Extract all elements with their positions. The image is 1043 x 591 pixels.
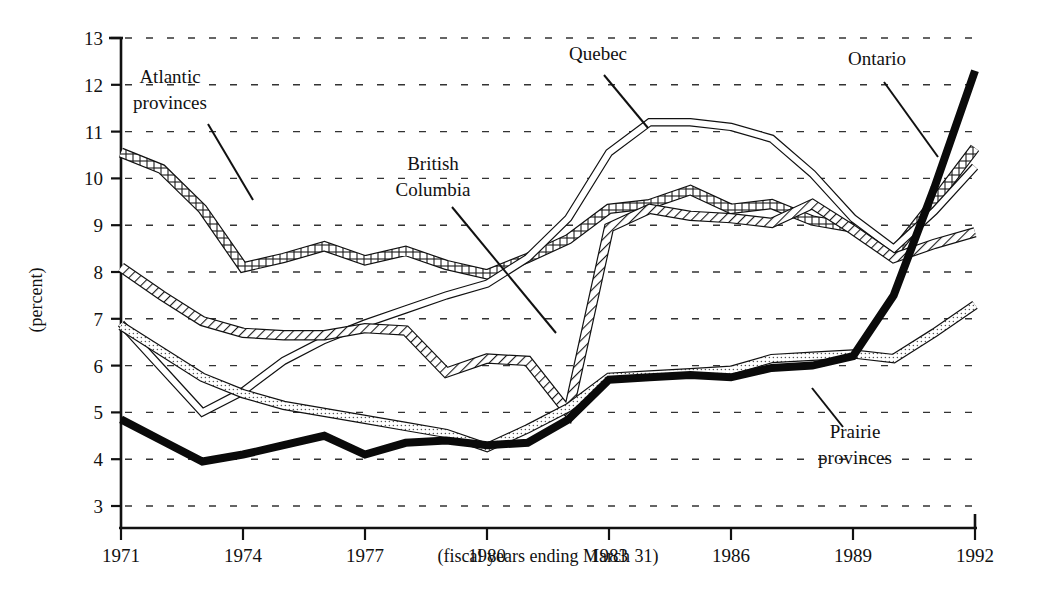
x-tick-label: 1986: [712, 545, 750, 566]
chart-figure: 345678910111213 197119741977198019831986…: [0, 0, 1043, 591]
x-tick-label: 1992: [956, 545, 994, 566]
y-tick-label: 13: [84, 28, 103, 49]
annotation-prairie-provinces: Prairieprovinces: [812, 388, 892, 468]
series-label-line: Atlantic: [139, 66, 200, 87]
y-tick-label: 5: [94, 402, 104, 423]
y-tick-label: 3: [94, 496, 104, 517]
data-series-layer: [121, 71, 975, 462]
series-label-line: provinces: [818, 447, 892, 468]
y-tick-label: 8: [94, 262, 104, 283]
x-axis-title: (fiscal years ending March 31): [438, 546, 659, 567]
y-tick-label: 9: [94, 215, 104, 236]
series-label-line: Quebec: [569, 43, 627, 64]
leader-line: [884, 82, 938, 157]
y-tick-label: 6: [94, 356, 104, 377]
series-label: Atlanticprovinces: [133, 66, 207, 113]
series-label: Quebec: [569, 43, 627, 64]
y-tick-label: 4: [94, 449, 104, 470]
series-label-line: British: [407, 153, 459, 174]
leader-line: [604, 75, 648, 128]
y-tick-label: 12: [84, 75, 103, 96]
annotation-atlantic-provinces: Atlanticprovinces: [133, 66, 253, 200]
x-tick-label: 1977: [346, 545, 384, 566]
y-tick-label: 11: [85, 122, 103, 143]
line-chart: 345678910111213 197119741977198019831986…: [0, 0, 1043, 591]
y-axis-title: (percent): [26, 268, 47, 333]
y-tick-label: 7: [94, 309, 104, 330]
series-label: Prairieprovinces: [818, 421, 892, 468]
x-tick-label: 1989: [834, 545, 872, 566]
series-label-line: Prairie: [830, 421, 881, 442]
x-tick-label: 1971: [102, 545, 140, 566]
series-label-line: Columbia: [396, 179, 472, 200]
y-tick-label: 10: [84, 168, 103, 189]
leader-line: [208, 124, 253, 200]
annotation-ontario: Ontario: [848, 48, 938, 157]
series-label-line: provinces: [133, 92, 207, 113]
series-label-line: Ontario: [848, 48, 906, 69]
x-tick-label: 1974: [224, 545, 263, 566]
series-label: Ontario: [848, 48, 906, 69]
y-axis-ticks: 345678910111213: [84, 28, 121, 517]
series-label: BritishColumbia: [396, 153, 472, 200]
